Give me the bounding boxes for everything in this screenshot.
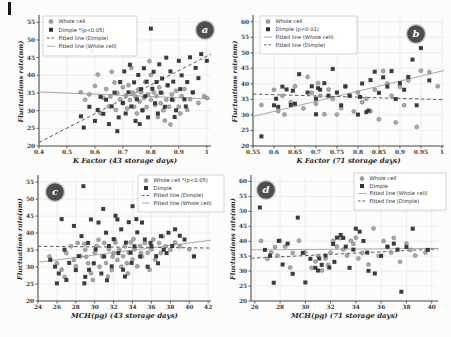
legend-marker-circle [49, 20, 53, 24]
y-tick-label: 45 [240, 65, 248, 71]
y-tick-label: 25 [27, 125, 35, 131]
y-tick-label: 40 [238, 238, 246, 244]
legend-label: Fitted line (Dimple) [275, 42, 325, 49]
legend-label: Fitted line (Dimple) [154, 192, 204, 199]
x-tick-label: 36 [147, 304, 155, 310]
legend-label: Dimple [154, 185, 172, 192]
x-tick-label: 32 [326, 304, 334, 310]
x-tick-label: 34 [128, 304, 136, 310]
y-tick-label: 60 [240, 19, 248, 25]
x-tick-label: 28 [72, 304, 80, 310]
x-axis-label: K Factor (71 storage days) [295, 156, 400, 165]
y-tick-label: 35 [26, 247, 34, 253]
y-axis: 202530354045505560 [240, 15, 252, 149]
x-tick-label: 32 [110, 304, 118, 310]
x-axis: 2628303234363840 [250, 301, 437, 310]
x-tick-label: 0.75 [329, 149, 343, 155]
y-tick-label: 30 [238, 268, 246, 274]
y-tick-label: 55 [26, 179, 34, 185]
x-tick-label: 24 [34, 304, 42, 310]
x-tick-label: 26 [250, 304, 258, 310]
x-tick-label: 42 [204, 304, 212, 310]
x-tick-label: 34 [351, 304, 359, 310]
x-axis: 24262830323436384042 [34, 301, 212, 310]
figure-grid: 0.40.50.60.70.80.912025303540455055Whole… [0, 0, 451, 337]
x-tick-label: 0.9 [394, 149, 404, 155]
legend-marker-circle [360, 177, 364, 181]
y-tick-label: 35 [27, 90, 35, 96]
legend: Whole cellDimple (p<0.01)Fitted line (Wh… [260, 16, 357, 54]
y-tick-label: 55 [238, 193, 246, 199]
legend-label: Dimple *(p<0.05) [59, 27, 105, 34]
x-tick-label: 0.7 [118, 149, 128, 155]
y-tick-label: 30 [27, 108, 35, 114]
y-axis: 2025303540455055 [27, 15, 39, 149]
panel-badge-a: a [196, 21, 215, 40]
chart-panel-c: 242628303234363840422025303540455055Whol… [0, 168, 226, 337]
y-tick-label: 25 [240, 127, 248, 133]
y-axis-label: Fluctuations rate(nm) [16, 198, 24, 281]
panel-badge-label: c [52, 186, 58, 197]
fitted-line-whole-cell [253, 70, 444, 116]
x-axis: 0.40.50.60.70.80.91 [34, 146, 211, 155]
panel-badge-label: a [202, 24, 208, 35]
panel-badge-d: d [256, 181, 275, 200]
y-tick-label: 55 [27, 19, 35, 25]
series-dimple [259, 46, 431, 138]
x-tick-label: 0.65 [287, 149, 301, 155]
x-tick-label: 0.8 [352, 149, 362, 155]
y-tick-label: 55 [240, 34, 248, 40]
y-tick-label: 35 [240, 96, 248, 102]
x-axis-label: MCH(pg) (71 storage days) [290, 311, 398, 320]
y-axis: 202530354045505560 [238, 175, 250, 304]
y-tick-label: 30 [26, 264, 34, 270]
y-tick-label: 40 [240, 81, 248, 87]
legend-label: Fitted line (Whole cell) [369, 190, 427, 196]
legend-label: Dimple (p<0.01) [275, 26, 318, 33]
legend-marker-circle [144, 179, 148, 183]
legend-label: Dimple [369, 183, 387, 190]
x-tick-label: 30 [301, 304, 309, 310]
legend-label: Whole cell [275, 18, 302, 24]
legend: Whole cell *(p<0.05)DimpleFitted line (D… [138, 175, 224, 212]
x-axis: 0.550.60.650.70.750.80.850.90.951 [245, 146, 443, 155]
y-axis-label: Fluctuations rate(nm) [229, 198, 237, 281]
legend: Whole cellDimple *(p<0.05)Fitted line (D… [43, 16, 137, 56]
y-tick-label: 50 [27, 37, 35, 43]
chart-panel-a: 0.40.50.60.70.80.912025303540455055Whole… [0, 0, 226, 168]
legend-marker-circle [266, 20, 270, 24]
y-axis-label: Fluctuations rate(nm) [17, 41, 25, 124]
legend: Whole cellDimpleFitted line (Whole cell)… [354, 173, 446, 210]
x-tick-label: 0.85 [371, 149, 385, 155]
x-tick-label: 30 [91, 304, 99, 310]
legend-label: Whole cell [369, 175, 396, 181]
x-tick-label: 0.55 [245, 149, 259, 155]
legend-marker-square [266, 27, 270, 31]
x-tick-label: 0.7 [310, 149, 320, 155]
x-tick-label: 0.9 [174, 149, 184, 155]
y-axis-label: Fluctuations rate(nm) [231, 41, 239, 124]
panel-badge-label: b [412, 28, 419, 39]
y-tick-label: 30 [240, 112, 248, 118]
y-tick-label: 45 [238, 223, 246, 229]
y-tick-label: 50 [240, 50, 248, 56]
x-tick-label: 0.95 [413, 149, 427, 155]
x-tick-label: 40 [427, 304, 435, 310]
x-tick-label: 28 [276, 304, 284, 310]
x-tick-label: 40 [185, 304, 193, 310]
x-tick-label: 26 [53, 304, 61, 310]
x-axis-label: MCH(pg) (43 storage days) [70, 311, 178, 320]
panel-badge-c: c [46, 183, 65, 202]
x-tick-label: 0.6 [90, 149, 100, 155]
legend-marker-square [49, 28, 53, 32]
legend-label: Whole cell [59, 18, 86, 24]
legend-label: Fitted line (Dimple) [369, 198, 419, 205]
legend-label: Fitted line (Whole cell) [275, 34, 333, 40]
y-tick-label: 50 [238, 208, 246, 214]
y-tick-label: 40 [27, 72, 35, 78]
panel-badge-label: d [262, 184, 269, 195]
legend-marker-square [144, 186, 148, 190]
legend-label: Whole cell *(p<0.05) [154, 177, 208, 184]
legend-label: Fitted line (Whole cell) [59, 43, 117, 49]
x-tick-label: 0.8 [146, 149, 156, 155]
